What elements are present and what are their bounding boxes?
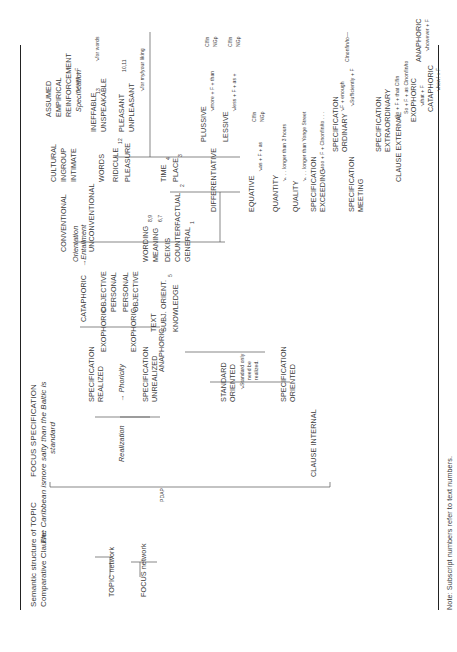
diagram-page: Semantic structure of Comparative Clause…: [0, 0, 457, 652]
text: TEXT: [150, 313, 157, 332]
equative: EQUATIVE: [248, 175, 255, 212]
ingroup: INGROUP: [60, 148, 67, 182]
quantity-example: ↘. . . longer than 3 hours: [282, 124, 287, 182]
exophoric-formula: ↘that + F: [420, 85, 425, 107]
phoricity-arrow: → Phoricity: [118, 364, 125, 402]
ridicule: RIDICULE: [112, 148, 119, 182]
spec-meeting-2: MEETING: [357, 179, 364, 212]
objective-2: OBJECTIVE: [132, 271, 139, 312]
reinforcement-note: ↘even + F: [75, 68, 80, 93]
anaphoric-formula: ↘however + F: [425, 19, 430, 52]
spec-meeting-1: SPECIFICATION: [348, 156, 355, 212]
ng-p-2: NGp: [236, 36, 241, 47]
meaning-sub: 6,7: [158, 215, 163, 222]
cultural: CULTURAL: [50, 144, 57, 182]
spec-oriented-2: ORIENTED: [289, 364, 296, 402]
pleasure-note: ↘for my/your liking: [140, 48, 145, 92]
meaning: MEANING: [152, 228, 159, 262]
quality: QUALITY: [292, 181, 299, 212]
spec-exophoric: EXOPHORIC: [410, 78, 417, 122]
words-note: ↘for words: [95, 36, 100, 62]
standard-oriented-1: STANDARD: [220, 362, 227, 402]
standard-note-1: ↘Standard only: [240, 354, 245, 390]
spec-unrealized-1: SPECIFICATION: [142, 346, 149, 402]
subj-orient: SUBJ. ORIENT.: [160, 280, 167, 332]
place: PLACE: [172, 158, 179, 182]
figure-title-line1: Semantic structure of: [30, 529, 38, 607]
general-sub: 1: [190, 221, 195, 224]
topic-label: TOPIC: [30, 502, 38, 527]
unspeakable: UNSPEAKABLE: [100, 78, 107, 132]
spec-extraordinary-2: EXTRAORDINARY: [384, 89, 391, 152]
ordinary-formula-1: ↘F + enough: [340, 81, 345, 112]
unpleasant-sub: 10,11: [122, 59, 127, 72]
plussive-formula: ↘more + F + than: [210, 71, 215, 112]
general: GENERAL: [184, 227, 191, 262]
time: TIME: [160, 164, 167, 182]
words: WORDS: [98, 154, 105, 182]
clause-external: CLAUSE EXTERNAL: [395, 112, 402, 182]
spec-exceeding-2: EXCEEDING: [319, 169, 326, 212]
equative-formula: ↘as + F + as: [258, 142, 263, 172]
clause-internal: CLAUSE INTERNAL: [310, 409, 317, 477]
conventional: CONVENTIONAL: [60, 194, 67, 252]
personal-1: PERSONAL: [110, 272, 117, 312]
cl-fin-3: Clfin: [252, 111, 257, 122]
ineffable: INEFFABLE: [90, 92, 97, 132]
spec-realized-2: REALIZED: [97, 366, 104, 402]
unpleasant: UNPLEASANT: [128, 83, 135, 132]
spec-anaphoric: ANAPHORIC: [415, 18, 422, 62]
reinforcement: REINFORCEMENT: [65, 53, 72, 117]
pleasure: PLEASURE: [124, 143, 131, 182]
lessive-formula: ↘less + F + as +: [232, 73, 237, 112]
wording-sub: 8,9: [148, 215, 153, 222]
topic-network-label: TOPIC network: [108, 547, 115, 597]
topic-example: The Caribbean is: [40, 481, 48, 544]
empirical: EMPIRICAL: [55, 77, 62, 117]
quality-example: ↘. . . longer than Yonge Street: [302, 112, 307, 182]
focus-spec-label: FOCUS SPECIFICATION: [30, 384, 38, 477]
deixis: DEIXIS: [164, 238, 171, 262]
exceeding-formula: ↘too + F + Clnonfin/to . . .: [320, 112, 325, 172]
ordinary-result: Clnonfin/to—: [345, 32, 350, 62]
exophoric-1: EXOPHORIC: [100, 308, 107, 352]
wording: WORDING: [142, 226, 149, 262]
cataphoric: CATAPHORIC: [80, 275, 87, 322]
personal-2: PERSONAL: [122, 272, 129, 312]
focus-example-line2: standard: [49, 422, 57, 454]
unconventional: UNCONVENTIONAL: [88, 184, 95, 253]
focus-example-line1: more salty than the Baltic is: [40, 381, 48, 482]
standard-note-3: realized.: [254, 360, 259, 380]
focus-network-label: FOCUS network: [140, 543, 147, 597]
cl-fin-1: Clfin: [205, 36, 210, 47]
spec-exceeding-1: SPECIFICATION: [310, 156, 317, 212]
place-sub: 3: [178, 154, 183, 157]
standard-note-2: need be: [247, 361, 252, 380]
knowledge: KNOWLEDGE: [172, 284, 179, 332]
ng-p-3: NGp: [260, 111, 265, 122]
ng-p-1: NGp: [213, 36, 218, 47]
counterfactual-sub: 2: [180, 184, 185, 187]
anaphoric: ANAPHORIC: [158, 328, 165, 372]
plussive: PLUSSIVE: [200, 106, 207, 142]
spec-extraordinary-1: SPECIFICATION: [375, 96, 382, 152]
differentiative: DIFFERENTIATIVE: [210, 148, 217, 212]
ordinary-formula-2: ↘Sufficiently + F: [350, 68, 355, 107]
objective-1: OBJECTIVE: [100, 271, 107, 312]
counterfactual: COUNTERFACTUAL: [174, 193, 181, 262]
pleasant: PLEASANT: [118, 94, 125, 132]
assumed: ASSUMED: [45, 81, 52, 117]
cl-fin-2: Clfin: [228, 36, 233, 47]
spec-cataphoric: CATAPHORIC: [427, 65, 434, 112]
subj-orient-sub: 5: [168, 274, 173, 277]
cataphoric-formula: ↘how! + F: [436, 68, 441, 92]
spec-ordinary-2: ORDINARY: [341, 113, 348, 152]
pdap-note: PDAP: [160, 488, 165, 502]
quantity: QUANTITY: [272, 175, 279, 212]
realization-label: Realization: [118, 425, 125, 462]
intimate: INTIMATE: [70, 148, 77, 182]
spec-oriented-1: SPECIFICATION: [280, 346, 287, 402]
spec-realized-1: SPECIFICATION: [88, 346, 95, 402]
footer-note: Note: Subscript numbers refer to text nu…: [446, 456, 453, 610]
lessive: LESSIVE: [222, 111, 229, 142]
